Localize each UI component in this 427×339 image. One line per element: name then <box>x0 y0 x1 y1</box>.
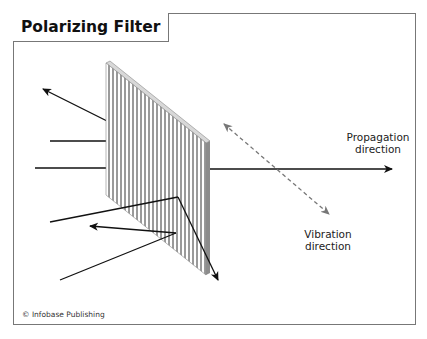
propagation-label-line2: direction <box>345 143 411 155</box>
vibration-direction-label: Vibration direction <box>295 228 361 252</box>
filter-panel <box>106 61 210 275</box>
propagation-label-line1: Propagation <box>345 131 411 143</box>
incoming-ray-4 <box>60 233 176 280</box>
polarizing-filter-diagram <box>0 0 427 339</box>
vibration-label-line2: direction <box>295 240 361 252</box>
propagation-direction-label: Propagation direction <box>345 131 411 155</box>
diagram-title: Polarizing Filter <box>13 13 169 42</box>
vibration-label-line1: Vibration <box>295 228 361 240</box>
copyright-notice: © Infobase Publishing <box>22 310 105 319</box>
